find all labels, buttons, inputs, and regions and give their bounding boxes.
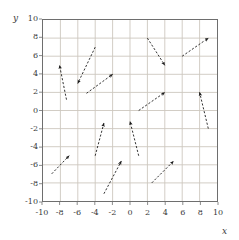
vector-arrow	[182, 38, 208, 56]
vector-arrow	[104, 161, 121, 194]
vector-arrow	[52, 156, 69, 174]
x-axis-label: x	[222, 226, 227, 236]
x-tick-label: 10	[207, 208, 229, 217]
y-tick-label: 2	[12, 87, 38, 96]
plot-area	[42, 19, 218, 202]
vector-arrow	[87, 74, 113, 93]
chart-figure: y x 1086420-2-4-6-8-10 -10-8-6-4-2024681…	[0, 0, 239, 240]
vector-arrows	[43, 20, 217, 201]
vector-arrow	[60, 65, 67, 99]
y-tick-label: 4	[12, 69, 38, 78]
y-tick-label: 0	[12, 106, 38, 115]
vector-arrow	[95, 123, 104, 156]
y-tick-label: 6	[12, 51, 38, 60]
y-tick-label: -6	[12, 160, 38, 169]
vector-arrow	[130, 121, 139, 155]
y-tick-label: 8	[12, 32, 38, 41]
y-tick-label: 10	[12, 14, 38, 23]
y-tick-label: -2	[12, 124, 38, 133]
vector-arrow	[78, 47, 95, 83]
vector-arrow	[152, 161, 174, 183]
vector-arrow	[200, 92, 209, 128]
vector-arrow	[147, 38, 164, 65]
y-tick-label: -8	[12, 179, 38, 188]
y-tick-label: -10	[12, 197, 38, 206]
y-tick-label: -4	[12, 142, 38, 151]
vector-arrow	[139, 92, 165, 110]
